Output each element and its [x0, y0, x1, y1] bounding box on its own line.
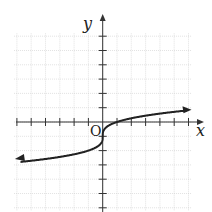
origin-label: O — [90, 123, 101, 139]
function-curve — [15, 106, 192, 162]
y-axis-label: y — [82, 14, 93, 33]
axes — [16, 14, 204, 212]
coordinate-plane: y x O — [0, 0, 212, 212]
graph: y x O — [0, 0, 212, 212]
x-axis-label: x — [196, 121, 205, 140]
